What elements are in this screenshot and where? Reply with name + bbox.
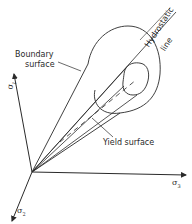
boundary-surface-label-line1: Boundary	[15, 50, 54, 59]
boundary-surface-label-line2: surface	[25, 60, 55, 69]
yield-cone-edge-mid	[32, 86, 124, 172]
boundary-cone-edge-upper	[32, 64, 88, 172]
yield-surface-curve	[123, 63, 149, 95]
yield-surface-diagram: Boundary surface Yield surface Hydrostat…	[0, 0, 192, 224]
yield-cone-edge-upper	[32, 68, 126, 172]
sigma1-axis	[14, 74, 32, 172]
yield-surface-leader	[92, 118, 113, 137]
sigma3-label: σ3	[172, 178, 181, 189]
yield-cone-edge-lower	[32, 95, 137, 172]
sigma2-subscript: 2	[22, 211, 25, 217]
sigma2-label: σ2	[17, 206, 26, 217]
sigma3-subscript: 3	[177, 183, 180, 189]
yield-surface-label: Yield surface	[103, 138, 154, 147]
sigma1-label: σ1	[5, 80, 17, 90]
diagram-graphics	[0, 0, 192, 224]
hydrostatic-dashed-segment	[60, 80, 136, 142]
sigma3-axis	[32, 172, 186, 175]
sigma1-subscript: 1	[11, 81, 17, 85]
boundary-surface-leader	[58, 62, 81, 71]
